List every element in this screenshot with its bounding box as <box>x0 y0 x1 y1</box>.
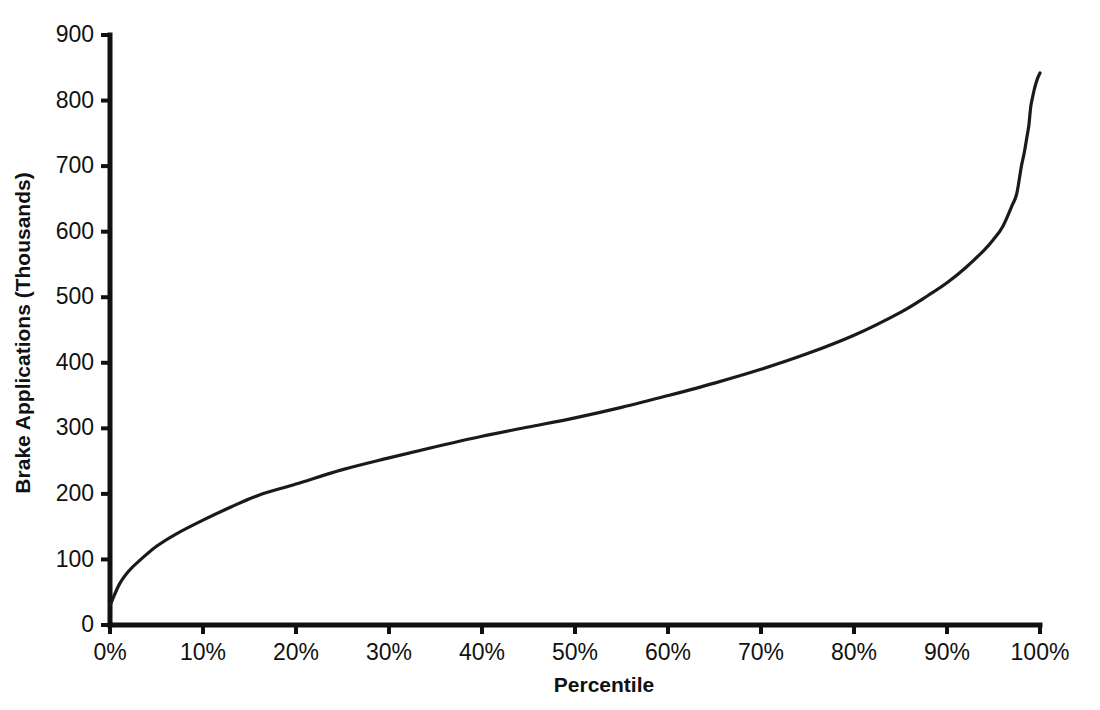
x-tick-label: 30% <box>366 639 412 665</box>
x-tick-label: 10% <box>180 639 226 665</box>
y-tick-label: 0 <box>81 611 94 637</box>
y-tick-label: 800 <box>56 87 94 113</box>
x-tick-label: 20% <box>273 639 319 665</box>
y-tick-label: 200 <box>56 480 94 506</box>
y-tick-label: 100 <box>56 546 94 572</box>
x-tick-label: 60% <box>645 639 691 665</box>
y-tick-label: 900 <box>56 21 94 47</box>
y-axis-title: Brake Applications (Thousands) <box>11 172 34 493</box>
x-tick-label: 50% <box>552 639 598 665</box>
x-tick-label: 70% <box>738 639 784 665</box>
y-tick-label: 700 <box>56 152 94 178</box>
chart-canvas: 0100200300400500600700800900 0%10%20%30%… <box>0 0 1100 710</box>
x-axis-title: Percentile <box>554 673 654 696</box>
y-tick-label: 500 <box>56 283 94 309</box>
x-tick-label: 100% <box>1011 639 1070 665</box>
chart-figure: 0100200300400500600700800900 0%10%20%30%… <box>0 0 1100 710</box>
y-tick-label: 300 <box>56 414 94 440</box>
x-tick-label: 40% <box>459 639 505 665</box>
chart-background <box>0 0 1100 710</box>
y-tick-label: 400 <box>56 349 94 375</box>
x-tick-label: 0% <box>93 639 126 665</box>
x-tick-label: 80% <box>831 639 877 665</box>
x-tick-label: 90% <box>924 639 970 665</box>
y-tick-label: 600 <box>56 218 94 244</box>
